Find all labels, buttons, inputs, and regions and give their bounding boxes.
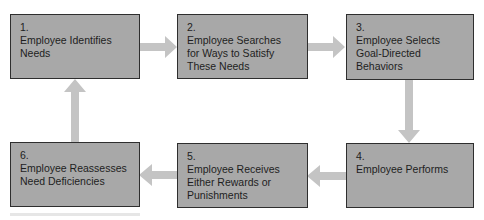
step-1-box: 1. Employee Identifies Needs [10,14,140,79]
step-3-box: 3. Employee Selects Goal-Directed Behavi… [346,14,474,80]
step-5-label: Employee Receives Either Rewards or Puni… [187,163,307,202]
step-6-number: 6. [20,149,139,162]
step-2-box: 2. Employee Searches for Ways to Satisfy… [177,14,308,79]
step-5-number: 5. [187,150,307,163]
arrow-3-to-4-icon [398,80,420,144]
arrow-5-to-6-icon [138,164,178,186]
arrow-1-to-2-icon [139,36,179,58]
step-3-label: Employee Selects Goal-Directed Behaviors [356,34,473,73]
step-2-number: 2. [187,21,307,34]
step-1-number: 1. [20,21,139,34]
step-4-label: Employee Performs [356,163,473,176]
step-3-number: 3. [356,21,473,34]
motivation-cycle-diagram: 1. Employee Identifies Needs 2. Employee… [0,0,484,220]
step-1-label: Employee Identifies Needs [20,34,139,60]
arrow-2-to-3-icon [307,36,347,58]
step-6-box: 6. Employee Reassesses Need Deficiencies [10,142,140,207]
cropped-caption-strip [10,213,140,216]
step-5-box: 5. Employee Receives Either Rewards or P… [177,143,308,208]
arrow-4-to-5-icon [306,165,347,187]
step-6-label: Employee Reassesses Need Deficiencies [20,162,139,188]
arrow-6-to-1-icon [64,78,86,143]
step-4-box: 4. Employee Performs [346,143,474,208]
step-2-label: Employee Searches for Ways to Satisfy Th… [187,34,307,73]
step-4-number: 4. [356,150,473,163]
